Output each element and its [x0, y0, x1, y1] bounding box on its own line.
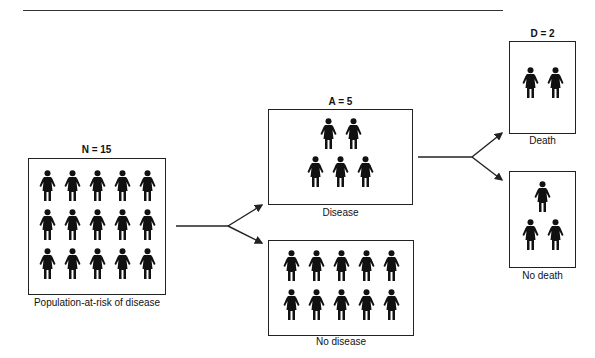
figure-row	[269, 289, 413, 322]
figure-row	[29, 209, 165, 242]
population-title: N = 15	[28, 144, 165, 155]
person-figure-icon	[357, 156, 374, 189]
population-box	[28, 158, 166, 295]
death-label: Death	[509, 135, 576, 146]
person-figure-icon	[139, 170, 156, 203]
person-figure-icon	[383, 289, 400, 322]
person-figure-icon	[89, 248, 106, 281]
person-figure-icon	[283, 289, 300, 322]
disease-title: A = 5	[268, 96, 413, 107]
person-figure-icon	[308, 250, 325, 283]
figure-row	[510, 67, 575, 100]
person-figure-icon	[345, 118, 362, 151]
person-figure-icon	[308, 289, 325, 322]
person-figure-icon	[114, 248, 131, 281]
person-figure-icon	[307, 156, 324, 189]
person-figure-icon	[383, 250, 400, 283]
person-figure-icon	[114, 209, 131, 242]
person-figure-icon	[114, 170, 131, 203]
person-figure-icon	[64, 170, 81, 203]
person-figure-icon	[358, 289, 375, 322]
figure-row	[269, 250, 413, 283]
figure-row	[269, 118, 412, 151]
no-death-label: No death	[509, 270, 576, 281]
person-figure-icon	[283, 250, 300, 283]
person-figure-icon	[333, 289, 350, 322]
person-figure-icon	[39, 248, 56, 281]
person-figure-icon	[522, 67, 539, 100]
disease-box	[268, 109, 413, 205]
person-figure-icon	[139, 209, 156, 242]
death-box	[509, 41, 576, 134]
figure-row	[29, 248, 165, 281]
person-figure-icon	[39, 209, 56, 242]
death-title: D = 2	[509, 28, 576, 39]
no-disease-box	[268, 240, 414, 336]
person-figure-icon	[547, 67, 564, 100]
figure-row	[269, 156, 412, 189]
person-figure-icon	[89, 209, 106, 242]
person-figure-icon	[64, 209, 81, 242]
person-figure-icon	[522, 219, 539, 252]
disease-label: Disease	[268, 207, 413, 218]
person-figure-icon	[358, 250, 375, 283]
figure-row	[29, 170, 165, 203]
person-figure-icon	[534, 181, 551, 214]
no-death-box	[509, 171, 576, 268]
person-figure-icon	[333, 250, 350, 283]
person-figure-icon	[139, 248, 156, 281]
no-disease-label: No disease	[268, 336, 414, 347]
figure-row	[510, 219, 575, 252]
person-figure-icon	[320, 118, 337, 151]
person-figure-icon	[547, 219, 564, 252]
population-label: Population-at-risk of disease	[28, 297, 166, 308]
figure-row	[510, 181, 575, 214]
person-figure-icon	[64, 248, 81, 281]
person-figure-icon	[39, 170, 56, 203]
person-figure-icon	[332, 156, 349, 189]
person-figure-icon	[89, 170, 106, 203]
